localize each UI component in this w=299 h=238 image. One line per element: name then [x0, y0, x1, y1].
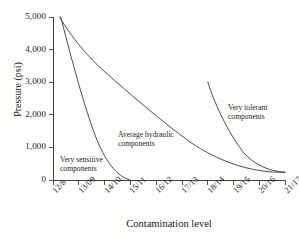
pressure-vs-contamination-chart: 5,000 4,000 3,000 2,000 1,000 0 12/8 13/…	[0, 0, 299, 238]
annotation-very-sensitive-components: Very sensitive components	[60, 155, 103, 173]
y-axis-title: Pressure (psi)	[12, 42, 23, 138]
annotation-very-sensitive-line1: Very sensitive	[60, 155, 103, 164]
curve-average-hydraulic-components	[60, 17, 286, 172]
annotation-average-hydraulic-line1: Average hydraulic	[118, 130, 174, 139]
annotation-very-tolerant-components: Very tolerant components	[228, 103, 267, 121]
y-tick-label-0: 0	[10, 174, 46, 184]
annotation-very-tolerant-line2: components	[228, 112, 267, 121]
y-tick-marks	[49, 17, 53, 180]
annotation-very-sensitive-line2: components	[60, 164, 103, 173]
y-tick-label-5000: 5,000	[10, 11, 46, 21]
x-axis-title: Contamination level	[53, 218, 285, 229]
y-tick-label-1000: 1,000	[10, 141, 46, 151]
annotation-average-hydraulic-components: Average hydraulic components	[118, 130, 174, 148]
annotation-very-tolerant-line1: Very tolerant	[228, 103, 267, 112]
annotation-average-hydraulic-line2: components	[118, 139, 174, 148]
